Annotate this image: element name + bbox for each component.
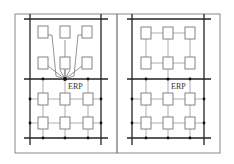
erp-label-left: ERP — [68, 82, 83, 91]
diagram-canvas: ERP — [0, 0, 234, 164]
erp-label-right: ERP — [171, 82, 186, 91]
left-panel: ERP — [24, 14, 108, 145]
right-panel: ERP — [127, 14, 211, 145]
